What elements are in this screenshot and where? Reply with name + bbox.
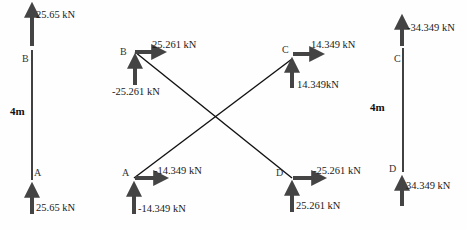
right-top-force-label: -34.349 kN: [407, 23, 455, 34]
a-horizontal-force-label: -14.349 kN: [154, 166, 202, 177]
d-vertical-force-label: 25.261 kN: [296, 201, 340, 212]
node-c-label: C: [282, 45, 289, 55]
node-d-label: D: [276, 168, 283, 178]
c-horizontal-force-label: 14.349 kN: [311, 40, 355, 51]
right-length-label: 4m: [370, 102, 385, 113]
a-vertical-force-label: -14.349 kN: [138, 204, 186, 215]
right-bottom-node-label: D: [389, 164, 396, 174]
node-a-label: A: [122, 168, 129, 178]
left-top-node-label: B: [22, 54, 29, 64]
b-horizontal-force-label: 25.261 kN: [152, 40, 196, 51]
left-bottom-node-label: A: [34, 168, 41, 178]
free-body-diagram: 25.65 kN B 4m A 25.65 kN B 25.261 kN -25…: [0, 0, 467, 230]
diagram-graphics: [0, 0, 467, 230]
right-top-node-label: C: [394, 54, 401, 64]
node-b-label: B: [120, 47, 127, 57]
right-bottom-force-label: 34.349 kN: [406, 181, 450, 192]
left-bottom-force-label: 25.65 kN: [36, 203, 75, 214]
middle-frame: [134, 52, 320, 214]
b-vertical-force-label: -25.261 kN: [112, 87, 160, 98]
member-a-c: [134, 59, 292, 178]
left-top-force-label: 25.65 kN: [36, 10, 75, 21]
d-horizontal-force-label: -25.261 kN: [313, 166, 361, 177]
c-vertical-force-label: 14.349kN: [297, 80, 339, 91]
left-length-label: 4m: [10, 106, 25, 117]
right-member: [402, 21, 403, 206]
